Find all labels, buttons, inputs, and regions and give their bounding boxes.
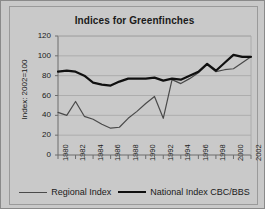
- data-series-layer: [58, 55, 251, 128]
- legend-item-regional-index: Regional Index: [19, 187, 111, 197]
- chart-container: Indices for Greenfinches Index: 2002=100…: [0, 0, 265, 209]
- x-axis-ticks: [58, 155, 251, 159]
- legend-label-national-index: National Index CBC/BBS: [150, 187, 250, 197]
- gridlines: [58, 36, 251, 135]
- legend-swatch-national-index: [118, 191, 146, 193]
- chart-plot-card: Indices for Greenfinches Index: 2002=100…: [9, 6, 258, 205]
- legend-item-national-index: National Index CBC/BBS: [118, 187, 250, 197]
- legend-swatch-regional-index: [19, 192, 47, 193]
- chart-legend: Regional Index National Index CBC/BBS: [10, 187, 259, 197]
- legend-label-regional-index: Regional Index: [51, 187, 111, 197]
- chart-plot-area: [10, 7, 259, 206]
